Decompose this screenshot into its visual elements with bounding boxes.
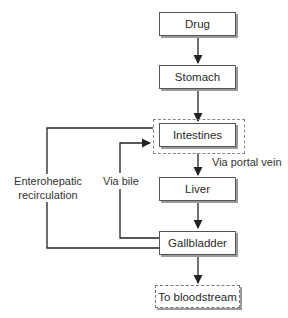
label-line-2: recirculation — [13, 188, 83, 202]
node-label: Intestines — [173, 129, 222, 141]
node-label: Liver — [185, 183, 210, 195]
node-intestines: Intestines — [159, 123, 236, 147]
label-via-bile: Via bile — [103, 173, 139, 189]
node-label: Drug — [185, 18, 210, 30]
label-via-portal-vein: Via portal vein — [212, 155, 282, 169]
node-liver: Liver — [159, 177, 236, 201]
label-line-1: Enterohepatic — [13, 174, 83, 188]
node-gallbladder: Gallbladder — [159, 231, 236, 255]
node-label: Stomach — [175, 71, 220, 83]
node-stomach: Stomach — [159, 65, 236, 89]
label-enterohepatic-recirculation: Enterohepatic recirculation — [13, 174, 83, 202]
node-bloodstream: To bloodstream — [155, 285, 240, 308]
node-label: Gallbladder — [168, 237, 227, 249]
node-label: To bloodstream — [158, 291, 237, 303]
node-drug: Drug — [159, 12, 236, 36]
bile-loop-line — [120, 143, 159, 238]
